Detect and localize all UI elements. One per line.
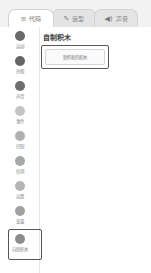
motion-dot-icon bbox=[15, 31, 25, 41]
tab-code-label: 代码 bbox=[29, 14, 41, 23]
tab-costumes[interactable]: ✎ 造型 bbox=[52, 9, 96, 27]
category-label: 侦测 bbox=[16, 168, 24, 174]
category-sound[interactable]: 声音 bbox=[0, 81, 39, 105]
make-a-block-button[interactable]: 制作新的积木 bbox=[45, 49, 105, 65]
control-dot-icon bbox=[15, 131, 25, 141]
category-label: 事件 bbox=[16, 118, 24, 124]
looks-dot-icon bbox=[15, 56, 25, 66]
category-label: 运动 bbox=[16, 43, 24, 49]
sound-dot-icon bbox=[15, 81, 25, 91]
code-icon: ≡ bbox=[21, 15, 27, 23]
category-motion[interactable]: 运动 bbox=[0, 31, 39, 55]
tab-sounds-label: 声音 bbox=[116, 14, 128, 23]
category-label: 外观 bbox=[16, 68, 24, 74]
speaker-icon: ◀) bbox=[104, 15, 112, 23]
category-label: 变量 bbox=[16, 218, 24, 224]
category-operators[interactable]: 运算 bbox=[0, 181, 39, 205]
tab-sounds[interactable]: ◀) 声音 bbox=[94, 9, 138, 27]
category-control[interactable]: 控制 bbox=[0, 131, 39, 155]
palette-heading: 自制积木 bbox=[43, 32, 71, 42]
category-events[interactable]: 事件 bbox=[0, 106, 39, 130]
tab-costumes-label: 造型 bbox=[72, 14, 84, 23]
operators-dot-icon bbox=[15, 181, 25, 191]
variables-dot-icon bbox=[15, 206, 25, 216]
selected-category-highlight bbox=[8, 229, 42, 260]
category-variables[interactable]: 变量 bbox=[0, 206, 39, 230]
tab-code[interactable]: ≡ 代码 bbox=[8, 9, 54, 27]
events-dot-icon bbox=[15, 106, 25, 116]
category-label: 控制 bbox=[16, 143, 24, 149]
editor-tab-bar: ≡ 代码 ✎ 造型 ◀) 声音 bbox=[0, 0, 151, 27]
category-label: 运算 bbox=[16, 193, 24, 199]
block-palette: 自制积木 制作新的积木 bbox=[40, 27, 151, 273]
sensing-dot-icon bbox=[15, 156, 25, 166]
category-sensing[interactable]: 侦测 bbox=[0, 156, 39, 180]
make-block-highlight: 制作新的积木 bbox=[41, 45, 109, 69]
category-looks[interactable]: 外观 bbox=[0, 56, 39, 80]
brush-icon: ✎ bbox=[64, 15, 70, 23]
category-label: 声音 bbox=[16, 93, 24, 99]
